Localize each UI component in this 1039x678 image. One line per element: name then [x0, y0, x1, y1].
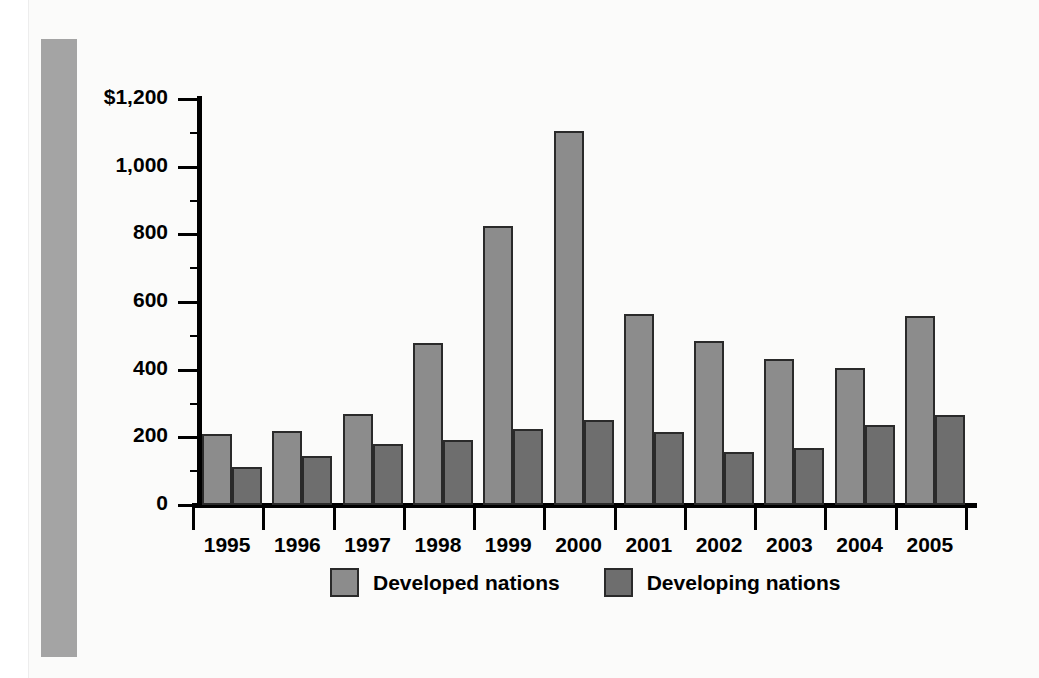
bar-2005-developing [935, 415, 965, 505]
x-axis-tick [543, 508, 546, 530]
y-axis-minor-tick [190, 403, 200, 405]
figure-page: 02004006008001,000$1,200 199519961997199… [0, 0, 1039, 678]
x-axis-tick-label: 2005 [885, 533, 975, 557]
y-axis-tick-label: 1,000 [48, 153, 168, 177]
y-axis-tick [178, 369, 200, 372]
y-axis-tick [178, 166, 200, 169]
bar-2002-developing [724, 452, 754, 505]
y-axis-tick [178, 98, 200, 101]
legend-label: Developing nations [647, 571, 841, 595]
bar-1995-developing [232, 467, 262, 505]
chart-legend: Developed nationsDeveloping nations [330, 568, 840, 597]
y-axis-tick [178, 504, 200, 507]
bar-1997-developing [373, 444, 403, 505]
y-axis-tick-label: 800 [48, 220, 168, 244]
y-axis-minor-tick [190, 335, 200, 337]
y-axis-tick [178, 301, 200, 304]
bar-1999-developing [513, 429, 543, 505]
bar-1996-developing [302, 456, 332, 505]
y-axis-minor-tick [190, 267, 200, 269]
x-axis-tick [614, 508, 617, 530]
x-axis-tick [824, 508, 827, 530]
x-axis-tick [473, 508, 476, 530]
x-axis-tick [684, 508, 687, 530]
x-axis-tick [192, 508, 195, 530]
bar-2000-developed [554, 131, 584, 505]
y-axis-tick-label: 0 [48, 491, 168, 515]
bar-2003-developed [764, 359, 794, 505]
y-axis-tick [178, 233, 200, 236]
y-axis-tick-label: 400 [48, 356, 168, 380]
bar-1999-developed [483, 226, 513, 505]
x-axis-tick [403, 508, 406, 530]
bar-2001-developed [624, 314, 654, 505]
y-axis-tick-label: $1,200 [48, 85, 168, 109]
bar-1996-developed [272, 431, 302, 505]
y-axis-minor-tick [190, 132, 200, 134]
legend-swatch-icon [604, 568, 633, 597]
bar-2001-developing [654, 432, 684, 505]
x-axis-tick [333, 508, 336, 530]
legend-label: Developed nations [373, 571, 560, 595]
y-axis-minor-tick [190, 200, 200, 202]
legend-item-developed: Developed nations [330, 568, 560, 597]
bar-2005-developed [905, 316, 935, 505]
bar-1997-developed [343, 414, 373, 505]
x-axis-tick [965, 508, 968, 530]
legend-swatch-icon [330, 568, 359, 597]
bar-1998-developed [413, 343, 443, 505]
x-axis-tick [754, 508, 757, 530]
x-axis-tick [262, 508, 265, 530]
y-axis-minor-tick [190, 470, 200, 472]
legend-item-developing: Developing nations [604, 568, 841, 597]
x-axis-tick [895, 508, 898, 530]
y-axis-tick-label: 200 [48, 423, 168, 447]
bar-2003-developing [794, 448, 824, 505]
y-axis-tick [178, 436, 200, 439]
bar-1995-developed [202, 434, 232, 505]
bar-2004-developing [865, 425, 895, 505]
bar-2004-developed [835, 368, 865, 505]
bar-2000-developing [584, 420, 614, 505]
bar-1998-developing [443, 440, 473, 505]
bar-2002-developed [694, 341, 724, 505]
y-axis-tick-label: 600 [48, 288, 168, 312]
